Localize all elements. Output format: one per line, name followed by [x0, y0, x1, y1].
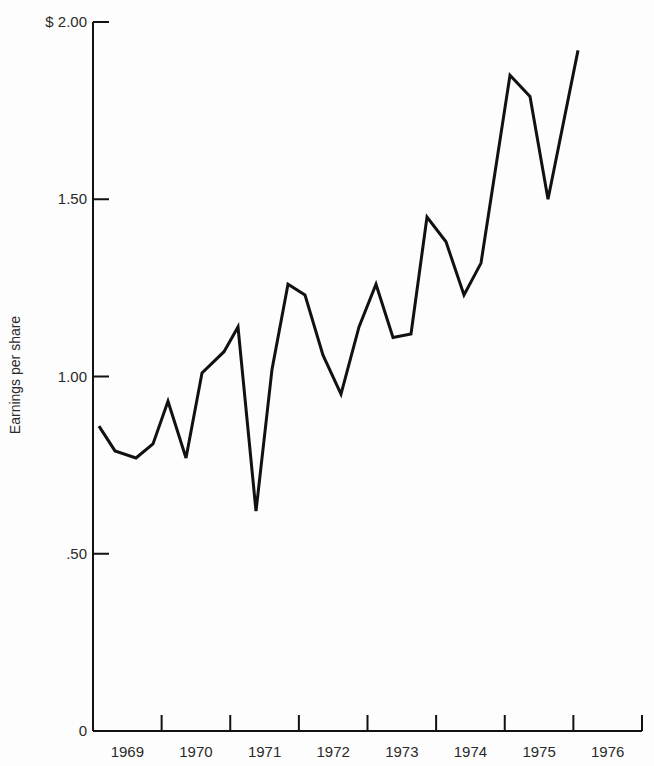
y-tick-label: 0	[79, 722, 87, 739]
x-tick-label: 1976	[591, 743, 624, 760]
earnings-series-line	[99, 50, 578, 511]
earnings-line-chart: 0.501.001.50$ 2.00 196919701971197219731…	[0, 0, 654, 766]
x-tick-label: 1969	[111, 743, 144, 760]
x-tick-label: 1972	[317, 743, 350, 760]
y-axis-title: Earnings per share	[7, 316, 23, 435]
x-tick-label: 1971	[248, 743, 281, 760]
y-tick-label: 1.00	[58, 368, 87, 385]
x-tick-label: 1970	[179, 743, 212, 760]
x-tick-label: 1975	[522, 743, 555, 760]
x-tick-label: 1973	[385, 743, 418, 760]
x-tick-label: 1974	[454, 743, 487, 760]
y-tick-label: $ 2.00	[45, 13, 87, 30]
axes	[93, 22, 642, 731]
x-axis-ticks: 19691970197119721973197419751976	[111, 715, 642, 760]
y-axis-ticks: 0.501.001.50$ 2.00	[45, 13, 109, 739]
y-tick-label: .50	[66, 545, 87, 562]
y-tick-label: 1.50	[58, 190, 87, 207]
